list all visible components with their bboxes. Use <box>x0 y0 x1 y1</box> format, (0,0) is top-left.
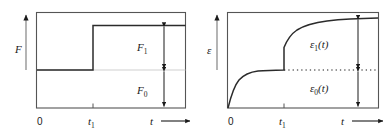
strain-panel: ε 0 t1 t ε1(t) ε0(t) <box>207 13 383 130</box>
force-step-curve <box>37 26 186 71</box>
strain-y-axis-label: ε <box>207 44 212 56</box>
force-y-axis-label: F <box>14 43 22 55</box>
strain-eps1-suffix: (t) <box>318 38 329 51</box>
force-f0-sub: 0 <box>144 90 148 99</box>
force-x-axis-label: t <box>150 115 154 127</box>
strain-x-tick-sub: 1 <box>282 121 286 130</box>
force-plot-frame <box>37 13 186 109</box>
strain-x-tick-label-t1: t1 <box>279 115 286 130</box>
force-x-tick-label-t1: t1 <box>88 115 95 130</box>
force-f0-label: F0 <box>136 84 148 99</box>
strain-eps0-suffix: (t) <box>318 82 329 95</box>
strain-eps0-label: ε0(t) <box>310 82 329 97</box>
force-x-tick-sub: 1 <box>91 121 95 130</box>
strain-eps1-label: ε1(t) <box>310 38 329 53</box>
strain-creep-curve <box>228 18 378 108</box>
strain-x-axis-label: t <box>341 115 345 127</box>
force-x-origin-label: 0 <box>37 116 43 127</box>
figure-container: F 0 t1 t F1 F0 ε <box>0 0 391 134</box>
force-f1-sub: 1 <box>144 47 148 56</box>
figure-svg: F 0 t1 t F1 F0 ε <box>0 0 391 134</box>
force-panel: F 0 t1 t F1 F0 <box>14 13 190 130</box>
strain-x-origin-label: 0 <box>228 116 234 127</box>
force-f1-label: F1 <box>136 41 148 56</box>
